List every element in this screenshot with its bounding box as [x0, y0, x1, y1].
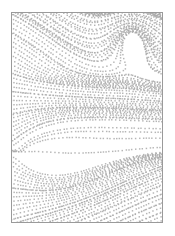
plot-frame [11, 12, 163, 223]
flow-field-plot [12, 13, 162, 222]
page-title: Dotted streamline flow field [0, 21, 1, 22]
figure-root: Dotted streamline flow field [0, 0, 175, 236]
